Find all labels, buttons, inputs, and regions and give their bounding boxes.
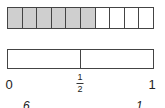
fraction-denominator: 2 bbox=[77, 85, 82, 94]
tenth-cell-shaded bbox=[8, 8, 23, 28]
fraction-numerator: 1 bbox=[77, 73, 82, 82]
tenth-cell-unshaded bbox=[96, 8, 111, 28]
label-one-half: 1 2 bbox=[77, 73, 84, 94]
tenth-cell-unshaded bbox=[139, 8, 153, 28]
tenth-cell-shaded bbox=[23, 8, 38, 28]
tenth-cell-shaded bbox=[66, 8, 81, 28]
tenth-cell-unshaded bbox=[125, 8, 140, 28]
half-cell-right bbox=[81, 50, 153, 68]
tenth-cell-shaded bbox=[37, 8, 52, 28]
label-one: 1 bbox=[148, 78, 155, 91]
tenth-cell-unshaded bbox=[110, 8, 125, 28]
partial-text-right: 1 bbox=[136, 100, 143, 108]
tenths-fraction-bar bbox=[7, 7, 154, 29]
half-cell-left bbox=[8, 50, 81, 68]
tenth-cell-shaded bbox=[52, 8, 67, 28]
halves-fraction-bar bbox=[7, 49, 154, 69]
partial-text-left: 6 bbox=[23, 100, 30, 108]
label-zero: 0 bbox=[5, 78, 12, 91]
tenth-cell-shaded bbox=[81, 8, 96, 28]
